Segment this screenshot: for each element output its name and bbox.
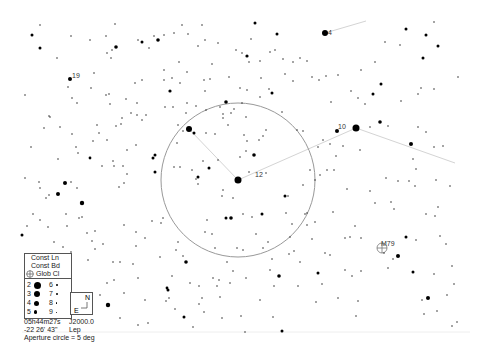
dec-value: -22 26' 43": [24, 326, 69, 334]
epoch-value: J2000.0: [69, 318, 94, 326]
star-dot-icon: [34, 301, 39, 306]
mag-8: 8: [49, 299, 71, 307]
compass: N E: [70, 292, 93, 315]
globular-cluster-icon: [26, 270, 34, 278]
star-dot-icon: [34, 310, 38, 314]
info-panel: 05h44m27sJ2000.0 -22 26' 43"Lep Aperture…: [24, 318, 95, 342]
mag-2: 2: [27, 281, 49, 289]
star-dot-icon: [34, 282, 41, 289]
legend-const-lines: Const Ln: [25, 254, 71, 262]
label-m79: M79: [381, 240, 395, 247]
compass-arrows-icon: [71, 293, 92, 314]
mag-6: 6: [49, 281, 71, 289]
ra-value: 05h44m27s: [24, 318, 69, 326]
legend-glob-cl-row: Glob Cl: [25, 270, 71, 278]
mag-9: 9: [49, 308, 71, 316]
star-dot-icon: [56, 293, 58, 295]
star-dot-icon: [56, 302, 58, 304]
label-19: 19: [72, 72, 80, 79]
mag-4: 4: [27, 299, 49, 307]
label-12: 12: [255, 171, 263, 178]
star-dot-icon: [56, 284, 59, 287]
mag-3: 3: [27, 290, 49, 298]
star-dot-icon: [56, 312, 57, 313]
constellation-value: Lep: [69, 326, 81, 334]
star-dot-icon: [34, 291, 40, 297]
legend-glob-cl: Glob Cl: [36, 270, 59, 278]
aperture-text: Aperture circle = 5 deg: [24, 334, 95, 342]
magnitude-scale: 2 6 3 7 4 8 5 9: [25, 279, 71, 318]
mag-5: 5: [27, 308, 49, 316]
star-labels: 19 4 10 12 M79: [72, 29, 395, 247]
legend-panel: Const Ln Const Bd Glob Cl 2 6 3 7 4 8 5 …: [24, 253, 72, 319]
constellation-lines: [22, 21, 470, 332]
label-4: 4: [328, 29, 332, 36]
legend-const-bounds: Const Bd: [25, 262, 71, 270]
label-10: 10: [338, 123, 346, 130]
bright-stars: [21, 22, 440, 333]
faint-stars: [24, 21, 459, 333]
mag-7: 7: [49, 290, 71, 298]
